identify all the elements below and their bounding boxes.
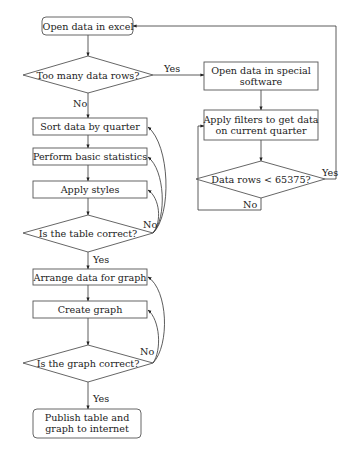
label-graph-yes: Yes [92,393,109,404]
node-label: Create graph [58,304,123,315]
node-too-many-rows: Too many data rows? [23,56,153,93]
edge-table-no-sort [148,127,166,233]
node-label: on current quarter [215,125,307,136]
label-rows-check-yes: Yes [321,167,338,178]
label-graph-no: No [140,346,154,357]
label-too-many-no: No [73,98,87,109]
node-label: Too many data rows? [37,70,140,81]
node-open-special: Open data in special software [204,62,318,90]
node-create-graph: Create graph [33,301,147,318]
label-table-no: No [143,219,157,230]
node-label: Is the table correct? [39,228,137,239]
node-label: Open data in excel [43,21,134,32]
node-label: Apply styles [60,184,120,195]
flowchart: Open data in excel Too many data rows? O… [0,0,354,454]
node-label: graph to internet [45,423,129,434]
edge-rows-yes-loop [133,26,336,179]
node-graph-correct: Is the graph correct? [23,345,153,382]
node-label: software [240,76,283,87]
node-label: Apply filters to get data [202,114,318,125]
label-too-many-yes: Yes [163,63,180,74]
node-open-excel: Open data in excel [42,17,133,35]
label-table-yes: Yes [92,254,109,265]
node-label: Data rows < 65375? [211,174,310,185]
node-arrange-data: Arrange data for graph [32,269,147,285]
node-label: Is the graph correct? [37,358,140,369]
node-label: Publish table and [45,412,130,423]
node-table-correct: Is the table correct? [23,215,153,252]
node-label: Sort data by quarter [40,121,140,132]
node-label: Open data in special [211,65,311,76]
node-publish: Publish table and graph to internet [33,409,141,438]
node-basic-stats: Perform basic statistics [33,148,147,165]
node-apply-filters: Apply filters to get data on current qua… [202,110,318,140]
node-label: Arrange data for graph [32,272,146,283]
label-rows-check-no: No [243,199,257,210]
node-sort-data: Sort data by quarter [33,118,147,135]
node-apply-styles: Apply styles [33,181,147,198]
node-data-rows-check: Data rows < 65375? [196,161,325,198]
node-label: Perform basic statistics [33,151,147,162]
